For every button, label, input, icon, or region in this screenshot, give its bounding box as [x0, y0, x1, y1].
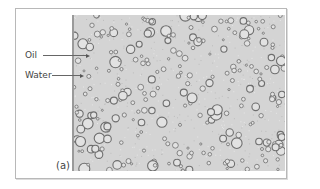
annotation-label-water: Water — [25, 71, 52, 80]
leader-line-oil — [43, 55, 86, 56]
panel-label: (a) — [56, 161, 70, 171]
leader-line-water — [52, 75, 80, 76]
oil-droplets — [74, 15, 285, 171]
emulsion-micrograph — [72, 15, 285, 171]
annotation-label-oil: Oil — [25, 51, 37, 60]
arrow-icon — [80, 74, 84, 78]
arrow-icon — [86, 54, 90, 58]
